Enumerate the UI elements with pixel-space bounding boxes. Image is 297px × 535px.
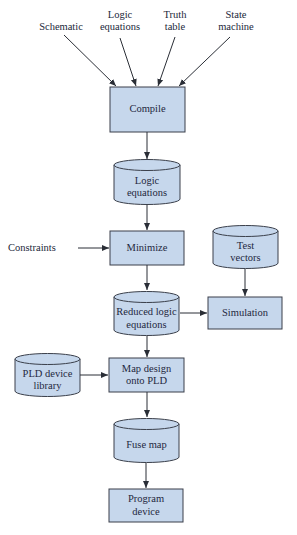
arrow-state-machine-to-compile bbox=[179, 37, 230, 86]
label-line: table bbox=[165, 21, 185, 32]
node-label: vectors bbox=[230, 252, 260, 265]
arrow-truth-table-to-compile bbox=[158, 37, 175, 86]
simulation-node: Simulation bbox=[208, 297, 282, 329]
label-line: State bbox=[226, 9, 247, 20]
node-label: equations bbox=[116, 319, 176, 332]
input-label-truth-table: Truth table bbox=[152, 9, 198, 33]
minimize-node: Minimize bbox=[110, 231, 184, 265]
node-label: Fuse map bbox=[126, 439, 167, 452]
reduced-logic-node: Reduced logicequations bbox=[112, 302, 181, 335]
label-line: Schematic bbox=[39, 21, 83, 32]
node-label: Program bbox=[128, 493, 164, 506]
node-label: library bbox=[23, 380, 73, 393]
map-design-node: Map designonto PLD bbox=[109, 358, 184, 392]
input-label-schematic: Schematic bbox=[30, 21, 92, 33]
arrow-schematic-to-compile bbox=[64, 35, 116, 86]
test-vectors-node: Testvectors bbox=[213, 236, 278, 268]
logic-equations-node: Logicequations bbox=[114, 170, 180, 204]
node-label: Simulation bbox=[222, 307, 268, 320]
node-label: onto PLD bbox=[122, 375, 171, 388]
label-line: Logic bbox=[108, 9, 133, 20]
node-label: equations bbox=[127, 187, 167, 200]
program-device-node: Programdevice bbox=[109, 489, 183, 522]
arrow-logic-eq-to-compile bbox=[120, 38, 136, 86]
label-line: machine bbox=[218, 21, 254, 32]
node-label: Map design bbox=[122, 363, 171, 376]
node-label: Minimize bbox=[127, 242, 168, 255]
fuse-map-node: Fuse map bbox=[114, 429, 179, 462]
node-label: Test bbox=[230, 240, 260, 253]
label-line: equations bbox=[100, 21, 140, 32]
node-label: device bbox=[128, 506, 164, 519]
node-label: PLD device bbox=[23, 368, 73, 381]
label-line: Constraints bbox=[8, 242, 56, 253]
node-label: Reduced logic bbox=[116, 306, 176, 319]
pld-library-node: PLD devicelibrary bbox=[15, 364, 80, 396]
constraints-label: Constraints bbox=[8, 242, 74, 254]
label-line: Truth bbox=[164, 9, 187, 20]
node-label: Logic bbox=[127, 175, 167, 188]
input-label-state-machine: State machine bbox=[208, 9, 264, 33]
node-label: Compile bbox=[129, 103, 165, 116]
input-label-logic-equations: Logic equations bbox=[90, 9, 150, 33]
compile-node: Compile bbox=[110, 87, 185, 132]
